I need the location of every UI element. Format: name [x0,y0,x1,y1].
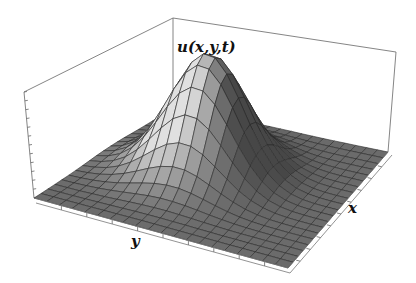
x-axis-label: x [348,199,357,217]
y-axis-label: y [131,232,140,250]
z-axis-label: u(x,y,t) [177,38,236,56]
z-axis-ticks [24,92,37,199]
z-axis-edge-right [388,52,396,152]
surface-mesh [34,54,388,268]
